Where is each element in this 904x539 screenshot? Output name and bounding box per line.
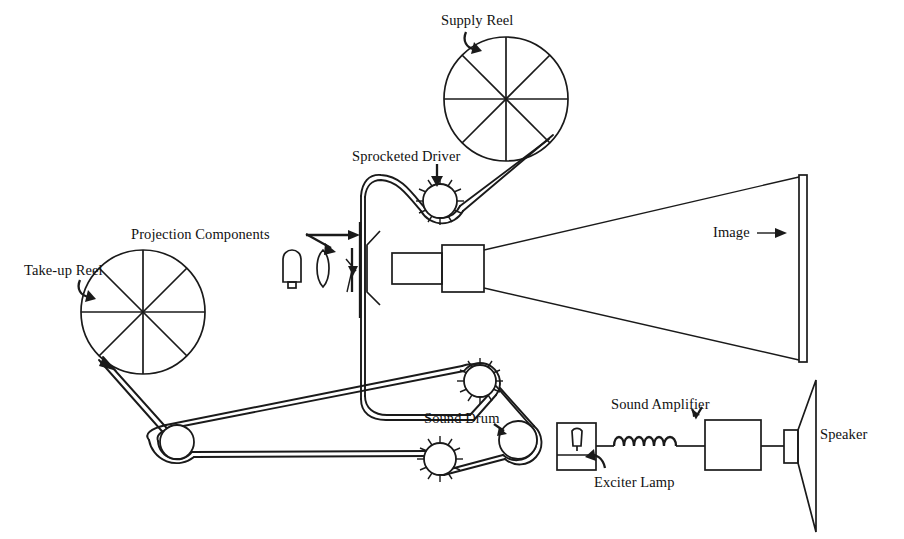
projector-diagram: Supply Reel Sprocketed Driver Projection… (0, 0, 904, 539)
amplifier-coil (614, 437, 676, 446)
amplifier-wire (596, 437, 705, 446)
projection-lamp (283, 250, 301, 288)
speaker-cone (798, 380, 816, 532)
condenser-lens (317, 250, 329, 287)
diagram-canvas (0, 0, 904, 539)
projected-light-beam (484, 177, 799, 360)
shutter-blade (346, 248, 358, 292)
speaker-magnet (784, 430, 798, 463)
idler-roller (160, 425, 194, 459)
exciter-lamp-housing (557, 423, 596, 470)
label-sprocketed-driver: Sprocketed Driver (352, 148, 460, 165)
sprocket-roller-lower (417, 436, 463, 482)
speaker (784, 380, 816, 532)
reflector-bracket (367, 231, 380, 305)
projection-screen (799, 175, 807, 362)
sound-drum (499, 421, 537, 459)
supply-reel (444, 37, 568, 161)
label-sound-drum: Sound Drum (424, 410, 500, 427)
label-supply-reel: Supply Reel (441, 12, 513, 29)
lens-barrel (392, 253, 442, 284)
image-arrow (757, 228, 787, 238)
label-exciter-lamp: Exciter Lamp (594, 474, 675, 491)
exciter-lamp-arrow (585, 449, 605, 468)
label-image: Image (713, 224, 750, 241)
sound-amplifier-box (705, 420, 761, 470)
lens-housing (442, 245, 484, 292)
label-speaker: Speaker (820, 426, 867, 443)
label-projection-components: Projection Components (131, 226, 270, 243)
label-sound-amplifier: Sound Amplifier (611, 396, 710, 413)
label-take-up-reel: Take-up Reel (24, 262, 103, 279)
